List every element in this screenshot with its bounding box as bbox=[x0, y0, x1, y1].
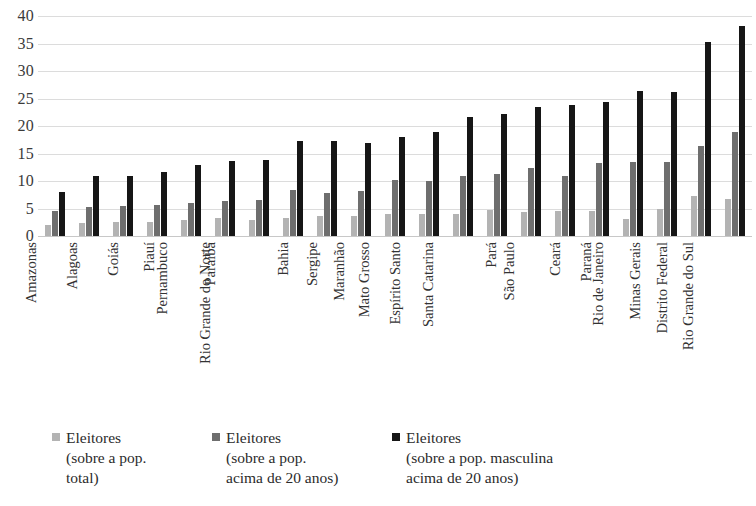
x-axis-label-cell: Rio Grande do Sul bbox=[718, 238, 752, 408]
y-axis-tick: 30 bbox=[18, 63, 34, 79]
bar bbox=[501, 114, 507, 236]
x-axis-label: Pará bbox=[484, 242, 499, 268]
x-axis-label: Rio Grande do Sul bbox=[681, 242, 696, 350]
bar bbox=[460, 176, 466, 237]
x-axis-label: Rio Grande do Norte bbox=[198, 242, 213, 364]
bar bbox=[725, 199, 731, 236]
bar bbox=[698, 146, 704, 236]
legend-item[interactable]: Eleitores(sobre a pop.acima de 20 anos) bbox=[212, 428, 392, 487]
bar bbox=[331, 141, 337, 236]
bar bbox=[528, 168, 534, 236]
bar bbox=[521, 212, 527, 236]
bar bbox=[79, 223, 85, 236]
x-axis-label: Distrito Federal bbox=[655, 242, 670, 333]
x-axis-label-cell: Ceará bbox=[548, 238, 582, 408]
legend-swatch-icon bbox=[212, 433, 220, 441]
legend-item[interactable]: Eleitores(sobre a pop.total) bbox=[52, 428, 212, 487]
y-axis: 0510152025303540 bbox=[0, 0, 34, 250]
bar bbox=[86, 207, 92, 236]
y-axis-tick: 5 bbox=[26, 201, 34, 217]
bar bbox=[263, 160, 269, 236]
bar bbox=[358, 191, 364, 236]
y-axis-tick: 10 bbox=[18, 173, 34, 189]
bar bbox=[161, 172, 167, 236]
bar bbox=[426, 181, 432, 236]
legend-swatch-icon bbox=[392, 433, 400, 441]
bar-group bbox=[38, 0, 72, 236]
bar-group bbox=[514, 0, 548, 236]
bar-group bbox=[616, 0, 650, 236]
bar bbox=[45, 225, 51, 236]
legend-swatch-icon bbox=[52, 433, 60, 441]
bar bbox=[127, 176, 133, 237]
bar-group bbox=[446, 0, 480, 236]
bar bbox=[147, 222, 153, 236]
bar bbox=[453, 214, 459, 236]
bar bbox=[657, 209, 663, 237]
bar bbox=[392, 180, 398, 236]
bar-group bbox=[412, 0, 446, 236]
gridline bbox=[38, 236, 752, 237]
bar bbox=[637, 91, 643, 236]
y-axis-tick: 15 bbox=[18, 146, 34, 162]
legend-label-line: acima de 20 anos) bbox=[406, 468, 553, 488]
bar bbox=[467, 117, 473, 236]
bar bbox=[630, 162, 636, 236]
bar-group bbox=[310, 0, 344, 236]
bar bbox=[596, 163, 602, 236]
bar bbox=[603, 102, 609, 236]
legend-label-line: Eleitores bbox=[226, 428, 338, 448]
bar-group bbox=[344, 0, 378, 236]
bar bbox=[195, 165, 201, 236]
bar bbox=[113, 222, 119, 236]
bar bbox=[494, 174, 500, 236]
y-axis-tick: 40 bbox=[18, 8, 34, 24]
bar bbox=[487, 210, 493, 236]
legend-label-line: Eleitores bbox=[66, 428, 147, 448]
x-axis-label: São Paulo bbox=[502, 242, 517, 300]
x-axis-label: Rio de Janeiro bbox=[591, 242, 606, 326]
bar-group bbox=[208, 0, 242, 236]
bar-group bbox=[718, 0, 752, 236]
x-axis-label: Minas Gerais bbox=[628, 242, 643, 320]
x-axis-label-cell: Santa Catarina bbox=[446, 238, 480, 408]
legend-label-line: (sobre a pop. masculina bbox=[406, 448, 553, 468]
x-axis-label-cell: Goiás bbox=[106, 238, 140, 408]
bar-group bbox=[72, 0, 106, 236]
x-axis-label: Ceará bbox=[548, 242, 563, 276]
bar bbox=[120, 206, 126, 236]
bar-group bbox=[174, 0, 208, 236]
bar bbox=[188, 203, 194, 236]
x-axis-label: Maranhão bbox=[332, 242, 347, 301]
legend-item[interactable]: Eleitores(sobre a pop. masculinaacima de… bbox=[392, 428, 692, 487]
bar bbox=[215, 218, 221, 236]
x-axis-label: Pernambuco bbox=[155, 242, 170, 314]
bar bbox=[589, 211, 595, 236]
bar bbox=[623, 219, 629, 236]
bar bbox=[399, 137, 405, 236]
bar-group bbox=[548, 0, 582, 236]
bar bbox=[351, 216, 357, 236]
bars-layer bbox=[38, 0, 752, 236]
x-axis-label: Amazonas bbox=[24, 242, 39, 303]
bar bbox=[562, 176, 568, 237]
legend-label-line: total) bbox=[66, 468, 147, 488]
legend-label-line: (sobre a pop. bbox=[66, 448, 147, 468]
bar bbox=[59, 192, 65, 236]
bar-group bbox=[582, 0, 616, 236]
bar bbox=[290, 190, 296, 236]
legend-label-line: acima de 20 anos) bbox=[226, 468, 338, 488]
legend-label: Eleitores(sobre a pop.acima de 20 anos) bbox=[226, 428, 338, 487]
bar bbox=[732, 132, 738, 237]
bar-group bbox=[140, 0, 174, 236]
bar-group bbox=[684, 0, 718, 236]
legend-label: Eleitores(sobre a pop.total) bbox=[66, 428, 147, 487]
bar-chart: 0510152025303540 AmazonasAlagoasGoiásPia… bbox=[0, 0, 756, 506]
x-axis-label: Santa Catarina bbox=[421, 242, 436, 327]
x-axis-label-cell: Paraíba bbox=[208, 238, 242, 408]
bar bbox=[93, 176, 99, 236]
x-axis-labels: AmazonasAlagoasGoiásPiauíPernambucoParaí… bbox=[38, 238, 752, 408]
legend-label-line: Eleitores bbox=[406, 428, 553, 448]
bar bbox=[249, 220, 255, 237]
legend-label: Eleitores(sobre a pop. masculinaacima de… bbox=[406, 428, 553, 487]
